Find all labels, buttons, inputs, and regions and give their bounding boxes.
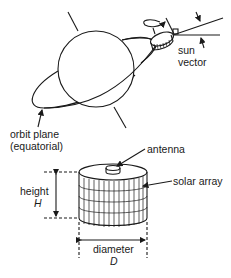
orbit-plane-label-1: orbit plane: [10, 128, 59, 140]
spin-arrow-icon: [144, 20, 165, 27]
height-symbol: H: [34, 197, 42, 209]
height-dimension: [44, 172, 78, 218]
solar-array-label: solar array: [173, 175, 223, 187]
height-label: height: [20, 185, 49, 197]
diameter-label: diameter: [93, 243, 134, 255]
antenna-label: antenna: [147, 143, 185, 155]
earth-globe: [58, 31, 134, 107]
satellite-cylinder: [79, 164, 147, 227]
orbit-plane-label-2: (equatorial): [10, 140, 63, 152]
satellite-small: [144, 20, 176, 50]
sun-vector: [166, 12, 223, 48]
diameter-symbol: D: [110, 255, 118, 267]
sun-vector-label-2: vector: [178, 56, 207, 68]
sun-vector-label-1: sun: [178, 44, 195, 56]
